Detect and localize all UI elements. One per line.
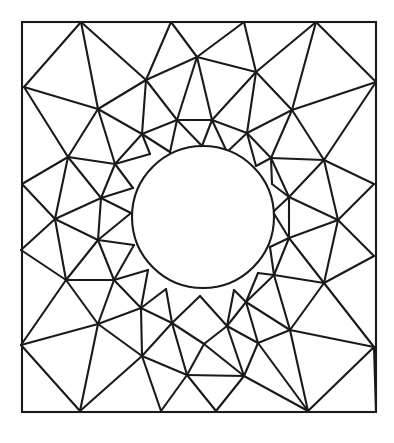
mesh-edge [22,184,55,219]
mesh-edge [338,184,374,220]
mesh-edge [271,158,324,160]
mesh-edge [289,220,338,238]
mesh-edge [55,219,66,280]
mesh-edge [68,157,115,164]
mesh-edge [114,280,141,308]
mesh-edge [142,120,177,134]
mesh-edge [172,296,200,323]
mesh-edge [216,376,244,411]
mesh-edge [66,280,98,324]
mesh-edge [171,22,197,57]
mesh-edge [273,212,289,238]
mesh-edge [316,22,376,82]
mesh-edge [177,57,197,120]
mesh-edge [161,375,187,411]
mesh-edge [101,188,133,198]
mesh-edge [292,22,316,110]
mesh-edge [187,344,204,375]
mesh-edge [187,375,216,411]
mesh-edge [142,356,161,411]
mesh-edge [98,80,146,109]
fem-mesh-diagram [0,0,394,443]
mesh-edge [324,160,374,184]
mesh-edge [98,213,131,240]
mesh-edge [202,120,212,146]
mesh-edge [141,308,172,323]
mesh-edge [274,275,324,283]
mesh-edge [21,250,66,280]
mesh-edge [22,157,68,184]
mesh-edge [98,240,134,245]
mesh-edge [256,72,292,110]
mesh-edge [247,110,292,133]
mesh-edge [98,280,114,324]
mesh-edge [204,326,227,344]
mesh-edge [246,275,274,302]
mesh-edge [98,308,141,324]
mesh-edge [324,220,338,283]
mesh-edge [200,296,227,326]
mesh-edge [101,164,115,198]
mesh-edge [256,158,271,166]
mesh-edge [197,57,212,120]
mesh-edge [258,330,290,343]
mesh-edge [177,120,202,146]
mesh-edge [308,347,374,411]
mesh-edge [21,345,80,411]
mesh-edge [142,323,172,356]
mesh-edge [338,220,374,256]
mesh-edge [292,82,376,110]
mesh-edge [66,240,98,280]
mesh-edge [289,238,324,283]
mesh-edge [55,219,98,240]
mesh-edge [290,283,324,330]
mesh-edge [115,164,133,188]
mesh-edge [142,356,187,375]
mesh-edge [271,110,292,158]
mesh-edge [141,308,142,356]
mesh-edge [324,82,376,160]
mesh-edge [98,240,114,280]
mesh-edge [24,22,81,87]
mesh-edge [324,256,374,283]
mesh-edge [55,157,68,219]
mesh-edge [273,197,289,212]
mesh-edge [289,197,338,220]
circular-hole [132,146,274,288]
mesh-edge [146,80,177,120]
mesh-edge [98,324,142,356]
mesh-edge [244,343,258,376]
mesh-edge [234,290,246,302]
mesh-edge [197,22,244,57]
mesh-edge [101,198,131,213]
mesh-edge [21,219,55,250]
mesh-edge [227,133,247,152]
mesh-edge [170,120,177,152]
mesh-edge [324,160,338,220]
mesh-edge [292,110,324,160]
mesh-edge [166,289,172,323]
mesh-edge [98,198,101,240]
mesh-edge [142,80,146,134]
mesh-edge [256,22,316,72]
mesh-edge [258,273,274,275]
mesh-edge [244,376,308,411]
mesh-edge [187,375,244,376]
mesh-edge [197,57,256,72]
mesh-edge [244,22,256,72]
mesh-edge [289,160,324,197]
mesh-edge [68,109,98,157]
mesh-edge [270,247,274,275]
mesh-edge [55,198,101,219]
mesh-edge [68,157,101,198]
